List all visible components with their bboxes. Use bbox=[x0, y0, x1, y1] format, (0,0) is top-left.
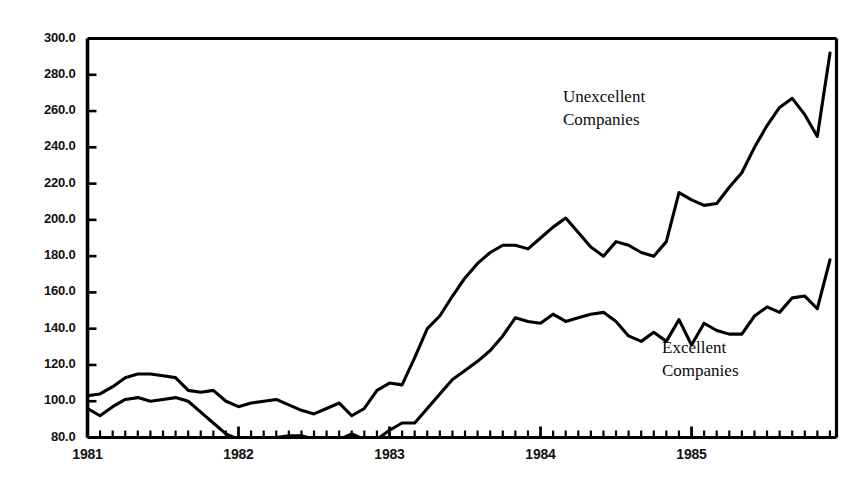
series-label-excellent-line-1: Excellent bbox=[662, 337, 739, 360]
series-label-unexcellent-line-2: Companies bbox=[563, 109, 645, 132]
x-axis-tick-label: 1981 bbox=[48, 446, 128, 462]
y-axis-tick-label: 160.0 bbox=[44, 283, 76, 298]
line-chart bbox=[0, 0, 868, 490]
x-axis-tick-label: 1982 bbox=[199, 446, 279, 462]
y-axis-tick-label: 120.0 bbox=[44, 356, 76, 371]
x-axis-tick-label: 1983 bbox=[350, 446, 430, 462]
y-axis-tick-label: 280.0 bbox=[44, 66, 76, 81]
chart-background bbox=[0, 0, 868, 490]
chart-figure: 80.0100.0120.0140.0160.0180.0200.0220.02… bbox=[0, 0, 868, 490]
series-label-unexcellent-companies: Unexcellent Companies bbox=[563, 86, 645, 132]
series-label-excellent-companies: Excellent Companies bbox=[662, 337, 739, 383]
y-axis-tick-label: 140.0 bbox=[44, 320, 76, 335]
series-label-unexcellent-line-1: Unexcellent bbox=[563, 86, 645, 109]
series-label-excellent-line-2: Companies bbox=[662, 360, 739, 383]
y-axis-tick-label: 200.0 bbox=[44, 211, 76, 226]
x-axis-tick-label: 1985 bbox=[652, 446, 732, 462]
y-axis-tick-label: 100.0 bbox=[44, 392, 76, 407]
y-axis-tick-label: 240.0 bbox=[44, 138, 76, 153]
y-axis-tick-label: 300.0 bbox=[44, 30, 76, 45]
y-axis-tick-label: 80.0 bbox=[51, 429, 76, 444]
y-axis-tick-label: 260.0 bbox=[44, 102, 76, 117]
y-axis-tick-label: 180.0 bbox=[44, 247, 76, 262]
y-axis-tick-label: 220.0 bbox=[44, 175, 76, 190]
x-axis-tick-label: 1984 bbox=[501, 446, 581, 462]
